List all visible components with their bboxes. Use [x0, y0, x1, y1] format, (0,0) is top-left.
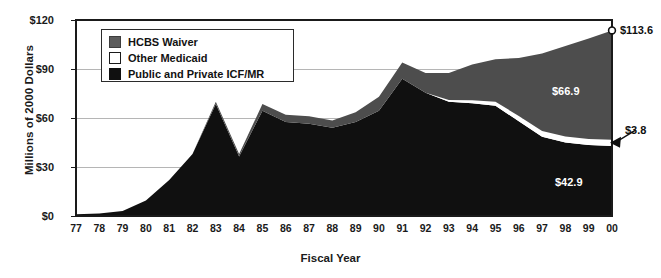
- legend-item-other-medicaid: Other Medicaid: [109, 50, 287, 66]
- legend-label-icf: Public and Private ICF/MR: [128, 68, 264, 80]
- legend-swatch-icon-hcbs: [109, 36, 121, 48]
- annotation-icf-42-9: $42.9: [555, 176, 583, 188]
- x-axis-tick-79: 79: [110, 222, 136, 234]
- x-axis-tick-94: 94: [459, 222, 485, 234]
- x-axis-tick-84: 84: [226, 222, 252, 234]
- legend-swatch-icon-other: [109, 52, 121, 64]
- annotation-hcbs-66-9: $66.9: [552, 85, 580, 97]
- x-axis-tick-88: 88: [319, 222, 345, 234]
- x-axis-tick-87: 87: [296, 222, 322, 234]
- annotation-other-3-8: $3.8: [625, 124, 646, 136]
- x-axis-tick-97: 97: [529, 222, 555, 234]
- x-axis-tick-89: 89: [343, 222, 369, 234]
- annotation-total-113-6: $113.6: [620, 24, 653, 36]
- x-axis-tick-82: 82: [180, 222, 206, 234]
- x-axis-tick-90: 90: [366, 222, 392, 234]
- legend-swatch-icon-icf: [109, 68, 121, 80]
- x-axis-tick-92: 92: [413, 222, 439, 234]
- x-axis-title: Fiscal Year: [0, 252, 661, 264]
- legend-item-hcbs-waiver: HCBS Waiver: [109, 34, 287, 50]
- legend-item-icf-mr: Public and Private ICF/MR: [109, 66, 287, 82]
- x-axis-tick-85: 85: [249, 222, 275, 234]
- chart-figure: Millions of 2000 Dollars $120 $90 $60 $3…: [0, 0, 661, 278]
- x-axis-tick-99: 99: [576, 222, 602, 234]
- plot-area: [0, 0, 661, 278]
- x-axis-tick-81: 81: [156, 222, 182, 234]
- x-axis-tick-96: 96: [506, 222, 532, 234]
- total-value-marker: [609, 27, 616, 34]
- legend: HCBS Waiver Other Medicaid Public and Pr…: [101, 29, 294, 82]
- x-axis-tick-86: 86: [273, 222, 299, 234]
- x-axis-tick-00: 00: [599, 222, 625, 234]
- x-axis-tick-98: 98: [552, 222, 578, 234]
- x-axis-tick-93: 93: [436, 222, 462, 234]
- x-axis-tick-95: 95: [482, 222, 508, 234]
- x-axis-tick-91: 91: [389, 222, 415, 234]
- x-axis-tick-80: 80: [133, 222, 159, 234]
- x-axis-tick-83: 83: [203, 222, 229, 234]
- x-axis-tick-77: 77: [63, 222, 89, 234]
- legend-label-other: Other Medicaid: [128, 52, 207, 64]
- x-axis-tick-78: 78: [86, 222, 112, 234]
- legend-label-hcbs: HCBS Waiver: [128, 36, 198, 48]
